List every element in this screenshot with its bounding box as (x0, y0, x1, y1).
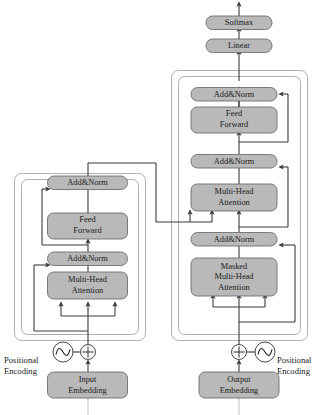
dec-feed-forward-label-1: Feed (226, 109, 243, 118)
dec-sine-wave-icon (255, 342, 275, 362)
dec-add-norm-1-label: Add&Norm (214, 235, 255, 244)
output-embedding-label-2: Embedding (220, 386, 259, 395)
dec-masked-label-2: Multi-Head (214, 272, 254, 281)
dec-add-norm-2-block[interactable]: Add&Norm (191, 155, 277, 169)
enc-sine-wave-icon (53, 342, 73, 362)
linear-block[interactable]: Linear (206, 39, 272, 53)
enc-positional-label-2: Encoding (4, 366, 38, 376)
dec-feed-forward-label-2: Forward (220, 120, 249, 129)
enc-add-norm-1-label: Add&Norm (67, 254, 108, 263)
dec-feed-forward-block[interactable]: Feed Forward (191, 107, 277, 133)
dec-masked-multi-head-attention-block[interactable]: Masked Multi-Head Attention (191, 258, 277, 296)
output-embedding-block[interactable]: Output Embedding (199, 372, 279, 398)
dec-masked-label-1: Masked (221, 262, 248, 271)
enc-multi-head-attention-block[interactable]: Multi-Head Attention (48, 272, 128, 299)
dec-multi-head-label-2: Attention (218, 198, 250, 207)
dec-masked-label-3: Attention (218, 283, 250, 292)
dec-positional-encoding-label: Positional Encoding (277, 355, 312, 376)
enc-add-norm-2-block[interactable]: Add&Norm (48, 176, 128, 190)
enc-feed-forward-label-2: Forward (73, 226, 102, 235)
output-embedding-label-1: Output (227, 375, 251, 384)
dec-add-norm-2-label: Add&Norm (214, 157, 255, 166)
linear-label: Linear (228, 41, 250, 50)
dec-add-norm-1-block[interactable]: Add&Norm (191, 233, 277, 247)
dec-multi-head-attention-block[interactable]: Multi-Head Attention (191, 184, 277, 211)
enc-add-norm-2-label: Add&Norm (67, 178, 108, 187)
dec-positional-label-1: Positional (277, 355, 312, 365)
input-embedding-label-1: Input (79, 375, 97, 384)
enc-multi-head-label-2: Attention (72, 286, 104, 295)
dec-positional-label-2: Encoding (277, 366, 311, 376)
dec-add-norm-3-label: Add&Norm (214, 90, 255, 99)
input-embedding-block[interactable]: Input Embedding (48, 372, 128, 398)
softmax-block[interactable]: Softmax (206, 16, 272, 30)
enc-positional-encoding-label: Positional Encoding (4, 355, 39, 376)
enc-feed-forward-block[interactable]: Feed Forward (48, 213, 128, 239)
transformer-architecture-diagram: Softmax Linear Add&Norm Feed Forward Add… (0, 0, 326, 415)
enc-positional-label-1: Positional (4, 355, 39, 365)
enc-feed-forward-label-1: Feed (79, 215, 96, 224)
softmax-label: Softmax (225, 18, 254, 27)
input-embedding-label-2: Embedding (68, 386, 107, 395)
enc-add-operator-icon (81, 345, 96, 360)
dec-multi-head-label-1: Multi-Head (214, 187, 254, 196)
enc-multi-head-label-1: Multi-Head (68, 275, 108, 284)
enc-add-norm-1-block[interactable]: Add&Norm (48, 252, 128, 266)
dec-add-operator-icon (232, 345, 247, 360)
dec-add-norm-3-block[interactable]: Add&Norm (191, 88, 277, 102)
